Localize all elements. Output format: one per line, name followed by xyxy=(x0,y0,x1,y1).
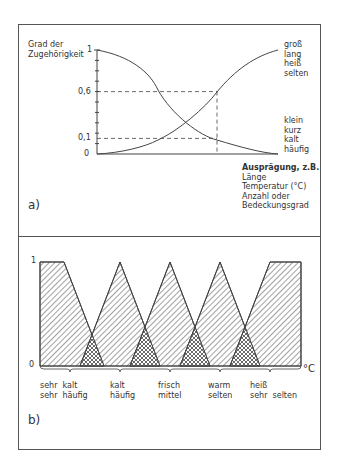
y-tick-0.6: 0,6 xyxy=(78,87,91,97)
category-heiss: heißsehr selten xyxy=(250,381,297,400)
lower-set-labels: kleinkurzkalthäufig xyxy=(284,116,309,154)
category-kalt: kalthäufig xyxy=(110,381,135,400)
y-tick-1: 1 xyxy=(87,45,92,55)
chart-b xyxy=(40,262,301,372)
y-tick-0: 0 xyxy=(84,149,89,159)
y-tick-0.1: 0,1 xyxy=(78,133,91,143)
decreasing-curve xyxy=(97,50,278,154)
x-axis-title-a: Ausprägung, z.B.LängeTemperatur (°C)Anza… xyxy=(242,163,319,211)
chart-a xyxy=(94,50,278,154)
y-tick-b-1: 1 xyxy=(31,256,36,266)
increasing-curve xyxy=(97,50,278,154)
y-tick-b-0: 0 xyxy=(29,360,34,370)
panel-label-b: b) xyxy=(28,413,40,427)
y-axis-title-a: Grad derZugehörigkeit xyxy=(28,40,84,59)
panel-label-a: a) xyxy=(28,198,40,212)
upper-set-labels: großlangheißselten xyxy=(284,40,308,78)
category-sehr-kalt: sehr kaltsehr häufig xyxy=(40,381,88,400)
category-warm: warmselten xyxy=(208,381,232,400)
x-unit-b: °C xyxy=(303,364,315,374)
category-frisch: frischmittel xyxy=(158,381,181,400)
baseline-brace xyxy=(40,366,301,372)
